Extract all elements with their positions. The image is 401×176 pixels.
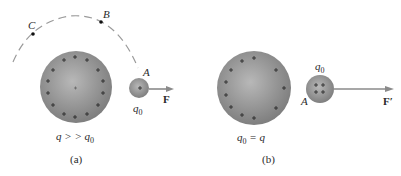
force-label-a: F	[163, 94, 170, 105]
large-charge-label-b: q0 = q	[237, 132, 265, 146]
caption-a: (a)	[70, 154, 82, 165]
test-charge-label-b: q0	[315, 61, 325, 75]
point-a-label: A	[143, 67, 150, 78]
point-b-label: B	[103, 9, 110, 20]
point-b-dot	[99, 20, 103, 24]
caption-b: (b)	[262, 154, 275, 165]
force-label-b: F′	[383, 96, 393, 107]
point-a-label-b: A	[301, 96, 308, 107]
large-charge-label-a: q > > q0	[56, 131, 94, 145]
point-c-dot	[31, 32, 35, 36]
large-charged-sphere	[40, 51, 112, 123]
point-c-label: C	[28, 20, 35, 31]
test-charge-label-a: q0	[133, 103, 143, 117]
test-charge-b	[306, 75, 334, 103]
diagram-canvas	[0, 0, 401, 176]
large-charged-sphere-b	[217, 51, 291, 125]
